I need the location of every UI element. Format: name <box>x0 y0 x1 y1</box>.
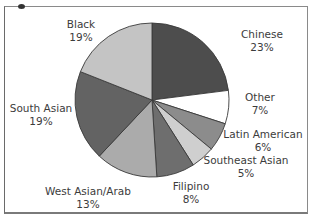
label-west-asian-arab: West Asian/Arab13% <box>45 185 131 210</box>
label-percent: 8% <box>173 193 210 206</box>
label-percent: 19% <box>67 31 95 44</box>
label-name: Chinese <box>241 28 283 41</box>
pie-slice-chinese <box>152 23 228 100</box>
label-percent: 19% <box>10 115 73 128</box>
label-chinese: Chinese23% <box>241 28 283 53</box>
label-black: Black19% <box>67 18 95 43</box>
label-south-asian: South Asian19% <box>10 102 73 127</box>
label-filipino: Filipino8% <box>173 180 210 205</box>
label-name: Black <box>67 18 95 31</box>
label-name: Other <box>245 91 275 104</box>
label-name: South Asian <box>10 102 73 115</box>
label-latin-american: Latin American6% <box>223 128 302 153</box>
label-percent: 13% <box>45 198 131 211</box>
label-name: Filipino <box>173 180 210 193</box>
label-percent: 7% <box>245 104 275 117</box>
label-percent: 6% <box>223 141 302 154</box>
label-percent: 23% <box>241 41 283 54</box>
label-name: Latin American <box>223 128 302 141</box>
label-name: Southeast Asian <box>204 154 289 167</box>
label-southeast-asian: Southeast Asian5% <box>204 154 289 179</box>
label-percent: 5% <box>204 167 289 180</box>
label-name: West Asian/Arab <box>45 185 131 198</box>
label-other: Other7% <box>245 91 275 116</box>
